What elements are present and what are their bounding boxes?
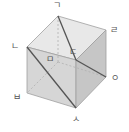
cube-diagram [0, 0, 129, 132]
vertex-label-mieum: ㅁ [46, 55, 54, 64]
vertex-label-digeut: ㄷ [69, 48, 77, 57]
vertex-label-giyeok: ㄱ [53, 1, 61, 10]
vertex-label-ieung: ㅇ [111, 74, 119, 83]
vertex-label-nieun: ㄴ [11, 42, 19, 51]
vertex-label-rieul: ㄹ [110, 26, 118, 35]
vertex-label-bieup: ㅂ [13, 93, 21, 102]
vertex-label-siot: ㅅ [72, 115, 80, 124]
